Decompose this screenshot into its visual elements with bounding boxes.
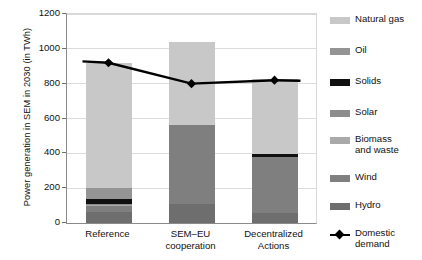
legend-label: Domestic demand	[355, 228, 395, 250]
bar-group[interactable]	[86, 14, 132, 223]
legend-item[interactable]: Biomass and waste	[330, 134, 399, 156]
y-tick-label: 1200	[22, 7, 60, 18]
chart-legend: Natural gasOilSolidsSolarBiomass and was…	[330, 6, 422, 256]
y-tick-label: 1000	[22, 42, 60, 53]
bar-segment[interactable]	[252, 154, 298, 157]
chart-figure: Power generation in SEM in 2030 (in TWh)…	[0, 0, 422, 260]
legend-label: Hydro	[355, 200, 381, 211]
bar-group[interactable]	[252, 14, 298, 223]
legend-label: Wind	[355, 172, 377, 183]
y-tick-label: 0	[22, 216, 60, 227]
legend-item[interactable]: Wind	[330, 172, 377, 194]
bar-segment[interactable]	[86, 63, 132, 188]
y-tick-label: 200	[22, 181, 60, 192]
plot-area	[66, 13, 317, 224]
bar-segment[interactable]	[252, 79, 298, 153]
bar-segment[interactable]	[86, 188, 132, 198]
legend-item[interactable]: Hydro	[330, 200, 381, 222]
bar-segment[interactable]	[169, 204, 215, 223]
legend-swatch	[330, 48, 350, 55]
legend-label: Oil	[355, 45, 367, 56]
legend-label: Solar	[355, 107, 377, 118]
legend-swatch	[330, 17, 350, 24]
legend-swatch	[330, 110, 350, 117]
legend-swatch	[330, 203, 350, 210]
legend-swatch	[330, 137, 350, 144]
legend-item[interactable]: Domestic demand	[330, 228, 395, 250]
bar-segment[interactable]	[86, 206, 132, 211]
legend-item[interactable]: Solids	[330, 76, 381, 98]
bar-segment[interactable]	[252, 213, 298, 223]
y-tick-label: 800	[22, 77, 60, 88]
legend-swatch	[330, 79, 350, 86]
bar-segment[interactable]	[169, 42, 215, 126]
legend-line-marker-icon	[330, 229, 350, 240]
legend-label: Solids	[355, 76, 381, 87]
y-tick-label: 400	[22, 146, 60, 157]
x-tick-label: Decentralized Actions	[219, 228, 329, 251]
legend-label: Natural gas	[355, 14, 404, 25]
bar-segment[interactable]	[86, 212, 132, 223]
bar-segment[interactable]	[252, 157, 298, 213]
legend-item[interactable]: Natural gas	[330, 14, 404, 36]
bar-segment[interactable]	[86, 204, 132, 205]
legend-swatch	[330, 175, 350, 182]
y-tick-label: 600	[22, 112, 60, 123]
bar-group[interactable]	[169, 14, 215, 223]
bar-segment[interactable]	[86, 205, 132, 207]
legend-item[interactable]: Oil	[330, 45, 367, 67]
legend-item[interactable]: Solar	[330, 107, 377, 129]
bar-segment[interactable]	[169, 125, 215, 203]
bar-segment[interactable]	[86, 199, 132, 204]
legend-label: Biomass and waste	[355, 134, 399, 156]
